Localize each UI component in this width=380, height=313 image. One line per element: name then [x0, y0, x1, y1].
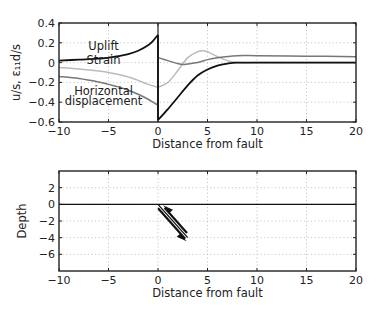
y-tick-label: −4 [39, 232, 55, 245]
top-plot: −10−505101520−0.6−0.4−0.200.20.4Distance… [9, 17, 363, 151]
y-tick-label: 0 [48, 198, 55, 211]
uplift-curve-right [158, 63, 356, 120]
annotation-strain: Strain [87, 53, 121, 67]
y-tick-label: 2 [48, 182, 55, 195]
y-tick-label: −2 [39, 215, 55, 228]
bottom-plot: −10−505101520−6−4−202Distance from fault… [15, 171, 363, 300]
y-axis-label: Depth [15, 203, 29, 238]
figure: −10−505101520−0.6−0.4−0.200.20.4Distance… [0, 0, 380, 313]
x-tick-label: 15 [300, 125, 314, 138]
annotation-displacement: displacement [65, 94, 143, 108]
x-tick-label: 20 [349, 274, 363, 287]
fault-symbol [158, 204, 188, 241]
y-tick-label: −0.6 [28, 116, 55, 129]
x-tick-label: 20 [349, 125, 363, 138]
x-tick-label: −10 [47, 274, 70, 287]
y-tick-label: 0 [48, 57, 55, 70]
x-axis-label: Distance from fault [152, 286, 263, 300]
fault-line-foot [158, 208, 185, 238]
x-tick-label: 15 [300, 274, 314, 287]
annotation-uplift: Uplift [88, 39, 119, 53]
x-tick-label: −5 [100, 274, 116, 287]
y-tick-label: −0.2 [28, 76, 55, 89]
y-tick-label: −6 [39, 248, 55, 261]
y-tick-label: −0.4 [28, 96, 55, 109]
y-tick-label: 0.4 [38, 17, 56, 30]
fault-plane [158, 204, 188, 237]
y-axis-label: u/s, ε₁₁d/s [9, 44, 23, 101]
y-tick-label: 0.2 [38, 37, 56, 50]
x-tick-label: −5 [100, 125, 116, 138]
x-axis-label: Distance from fault [152, 137, 263, 151]
